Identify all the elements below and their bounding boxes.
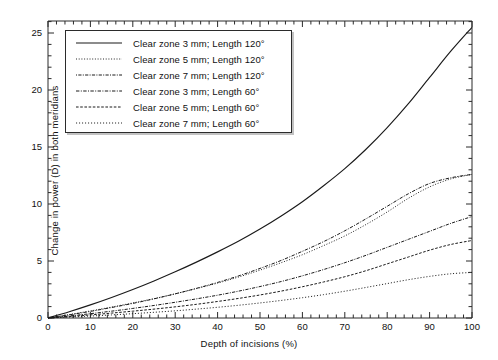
- y-tick-label: 0: [16, 312, 42, 323]
- x-tick-label: 10: [75, 321, 105, 332]
- x-tick-label: 40: [203, 321, 233, 332]
- series-line-4: [48, 174, 472, 318]
- y-tick-label: 10: [16, 198, 42, 209]
- x-tick-label: 20: [118, 321, 148, 332]
- legend-item-label: Clear zone 3 mm; Length 120°: [133, 38, 265, 49]
- legend-line-swatch-icon: [74, 101, 124, 113]
- legend-line-swatch-icon: [74, 37, 124, 49]
- legend-item-label: Clear zone 3 mm; Length 60°: [133, 86, 259, 97]
- y-tick-label: 20: [16, 84, 42, 95]
- legend-item-label: Clear zone 5 mm; Length 60°: [133, 102, 259, 113]
- x-tick-label: 60: [287, 321, 317, 332]
- x-tick-label: 80: [372, 321, 402, 332]
- legend-line-swatch-icon: [74, 69, 124, 81]
- x-tick-label: 90: [415, 321, 445, 332]
- series-line-3: [48, 217, 472, 318]
- x-tick-label: 50: [245, 321, 275, 332]
- legend-line-swatch-icon: [74, 53, 124, 65]
- y-tick-label: 5: [16, 255, 42, 266]
- y-axis-title: Change in power (D) in both meridians: [49, 21, 60, 321]
- x-tick-label: 100: [457, 321, 487, 332]
- legend-item: Clear zone 5 mm; Length 60°: [66, 99, 291, 115]
- legend-line-swatch-icon: [74, 117, 124, 129]
- y-tick-label: 15: [16, 141, 42, 152]
- series-line-2: [48, 174, 472, 318]
- legend-item-label: Clear zone 7 mm; Length 60°: [133, 118, 259, 129]
- x-tick-label: 70: [330, 321, 360, 332]
- legend-item: Clear zone 5 mm; Length 120°: [66, 51, 291, 67]
- legend-item: Clear zone 3 mm; Length 120°: [66, 35, 291, 51]
- series-line-5: [48, 240, 472, 318]
- chart-figure: 0102030405060708090100 0510152025 Depth …: [0, 0, 498, 360]
- legend-item-label: Clear zone 5 mm; Length 120°: [133, 54, 265, 65]
- x-tick-label: 30: [160, 321, 190, 332]
- x-axis-title: Depth of incisions (%): [0, 338, 498, 349]
- chart-legend: Clear zone 3 mm; Length 120°Clear zone 5…: [65, 30, 292, 133]
- legend-line-swatch-icon: [74, 85, 124, 97]
- y-tick-label: 25: [16, 27, 42, 38]
- legend-item-label: Clear zone 7 mm; Length 120°: [133, 70, 265, 81]
- legend-item: Clear zone 7 mm; Length 120°: [66, 67, 291, 83]
- legend-item: Clear zone 7 mm; Length 60°: [66, 115, 291, 131]
- legend-item: Clear zone 3 mm; Length 60°: [66, 83, 291, 99]
